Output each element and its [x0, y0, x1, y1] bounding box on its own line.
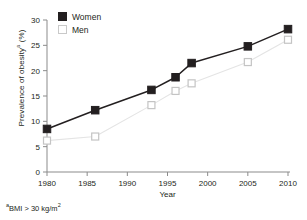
y-tick-label: 30	[31, 16, 40, 25]
data-point-women-1986	[91, 106, 99, 114]
data-point-women-1998	[188, 59, 196, 67]
data-point-women-2005	[244, 43, 252, 51]
series-women	[43, 25, 292, 132]
data-point-women-1993	[148, 86, 156, 94]
data-point-men-1998	[188, 80, 195, 87]
x-tick-label: 2005	[239, 179, 257, 188]
x-tick-label: 1985	[78, 179, 96, 188]
data-point-men-1986	[92, 133, 99, 140]
footnote-exponent: 2	[58, 202, 61, 208]
plot-area: 051015202530 198019851990199520002005201…	[0, 0, 307, 220]
y-tick-label: 10	[31, 117, 40, 126]
x-axis-ticks: 1980198519901995200020052010	[38, 172, 297, 188]
y-tick-label: 20	[31, 67, 40, 76]
data-point-men-2010	[285, 36, 292, 43]
x-axis-title: Year	[47, 190, 288, 199]
y-tick-label: 5	[36, 143, 41, 152]
x-tick-label: 2000	[199, 179, 217, 188]
data-point-women-2010	[284, 25, 292, 33]
x-tick-label: 1980	[38, 179, 56, 188]
chart-footnote: aBMI > 30 kg/m2	[6, 202, 61, 213]
y-tick-label: 15	[31, 92, 40, 101]
x-tick-label: 2010	[279, 179, 297, 188]
x-tick-label: 1990	[118, 179, 136, 188]
data-point-men-2005	[244, 59, 251, 66]
y-tick-label: 25	[31, 41, 40, 50]
data-point-women-1996	[172, 74, 180, 82]
x-tick-label: 1995	[159, 179, 177, 188]
series-men	[44, 36, 292, 144]
footnote-text: BMI > 30 kg/m	[9, 204, 58, 213]
data-point-women-1980	[43, 125, 51, 132]
y-tick-label: 0	[36, 168, 41, 177]
series-line-men	[47, 40, 288, 141]
data-point-men-1996	[172, 87, 179, 94]
obesity-prevalence-chart: Prevalence of obesitya (%) Women Men 051…	[0, 0, 307, 220]
data-point-men-1993	[148, 102, 155, 109]
data-point-men-1980	[44, 137, 51, 144]
y-axis-ticks: 051015202530	[31, 16, 47, 177]
